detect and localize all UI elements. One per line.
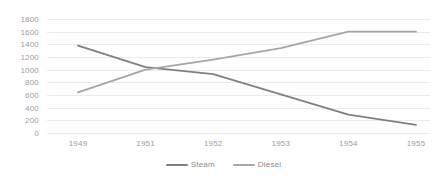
y-tick-label: 600 [25,91,39,100]
series-layer [47,19,430,133]
y-tick-label: 0 [34,129,39,138]
legend-item-steam[interactable]: Steam [166,160,215,169]
chart-legend: SteamDiesel [0,160,447,169]
y-tick-label: 1000 [20,65,39,74]
y-tick-label: 1600 [20,27,39,36]
legend-swatch-icon [166,164,188,166]
gridline [47,133,430,134]
y-tick-label: 200 [25,116,39,125]
x-tick-label: 1949 [69,139,88,148]
x-tick-label: 1952 [204,139,223,148]
x-tick-label: 1954 [339,139,358,148]
x-tick-label: 1953 [271,139,290,148]
legend-swatch-icon [233,164,255,166]
legend-label: Diesel [258,160,281,169]
x-tick-label: 1955 [407,139,426,148]
x-tick-label: 1951 [136,139,155,148]
y-tick-label: 800 [25,78,39,87]
y-tick-label: 1200 [20,53,39,62]
plot-area [47,19,430,133]
y-tick-label: 400 [25,103,39,112]
y-tick-label: 1800 [20,15,39,24]
line-chart: 180016001400120010008006004002000 194919… [0,0,447,180]
y-axis: 180016001400120010008006004002000 [0,0,43,180]
legend-label: Steam [191,160,215,169]
legend-item-diesel[interactable]: Diesel [233,160,281,169]
series-line-steam [78,46,416,125]
x-axis: 194919511952195319541955 [47,139,430,153]
y-tick-label: 1400 [20,40,39,49]
